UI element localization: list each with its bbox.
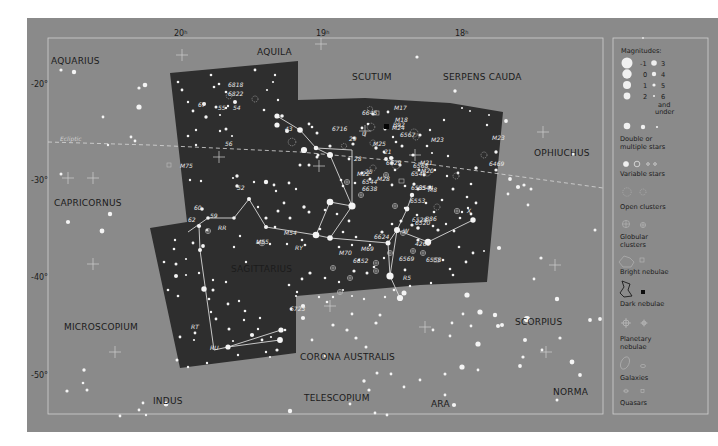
star: [348, 158, 351, 161]
star: [475, 341, 480, 346]
ecliptic-label: Ecliptic: [60, 135, 82, 143]
star: [210, 311, 212, 313]
mag-label-0: 0: [643, 71, 647, 79]
star: [173, 248, 176, 251]
star: [60, 173, 63, 176]
star: [394, 227, 400, 233]
star: [225, 344, 230, 349]
star: [504, 119, 508, 123]
star: [187, 366, 189, 368]
mag-2-star: [624, 93, 631, 100]
object-label: RT: [191, 323, 200, 330]
star: [367, 388, 370, 391]
star: [355, 236, 358, 239]
object-label: 60: [194, 204, 202, 211]
star: [403, 386, 406, 389]
star: [204, 115, 207, 118]
object-label: M70: [339, 249, 352, 256]
double-star-icon-large: [624, 123, 631, 130]
star: [402, 291, 407, 296]
star: [469, 110, 471, 112]
globular-cluster-symbol: [347, 275, 352, 280]
star: [274, 113, 279, 118]
star: [449, 335, 452, 338]
star: [301, 147, 307, 153]
star: [286, 243, 288, 245]
dec-label-minus30: -30°: [31, 176, 48, 185]
star: [533, 278, 536, 281]
star: [508, 177, 512, 181]
dec-label-minus50: -50°: [31, 371, 48, 380]
star: [474, 166, 477, 169]
star: [433, 211, 436, 214]
star: [244, 310, 247, 313]
star: [243, 319, 245, 321]
star: [225, 128, 228, 131]
star: [523, 338, 527, 342]
star: [314, 146, 319, 151]
legend-globular-line1: Globular: [620, 233, 648, 241]
star: [351, 244, 353, 246]
star: [376, 372, 379, 375]
star: [351, 313, 354, 316]
mag-1-star: [623, 81, 631, 89]
star: [274, 226, 277, 229]
object-label: 54: [233, 104, 241, 111]
globular-cluster-symbol: [420, 250, 425, 255]
star: [516, 185, 520, 189]
star: [237, 354, 239, 356]
object-label: M25: [373, 140, 386, 147]
star: [598, 317, 602, 321]
star: [225, 91, 228, 94]
globular-cluster-symbol: [373, 268, 378, 273]
star: [338, 281, 340, 283]
object-label: 62: [188, 216, 196, 223]
object-label: 25: [365, 168, 373, 175]
star: [299, 164, 302, 167]
mag-label-2: 2: [643, 93, 647, 101]
star: [194, 332, 197, 335]
star: [522, 183, 525, 186]
object-label: U: [362, 130, 367, 137]
star: [327, 199, 334, 206]
star-chart: Ecliptic 20h 19h 18h -20° -30° -40° -50°…: [0, 0, 718, 446]
star: [272, 81, 274, 83]
star: [352, 269, 355, 272]
star: [82, 368, 85, 371]
constellation-norma: NORMA: [553, 387, 589, 397]
star: [278, 327, 283, 332]
star: [318, 296, 320, 298]
object-label: 6553: [410, 197, 425, 204]
star: [296, 291, 298, 293]
star: [283, 202, 286, 205]
object-label: 56: [225, 140, 233, 147]
star: [383, 257, 385, 259]
star: [395, 141, 398, 144]
star: [461, 211, 463, 213]
star: [175, 263, 178, 266]
star: [192, 110, 195, 113]
star: [308, 164, 311, 167]
object-label: 6629: [386, 159, 401, 166]
mag-minus1-star: [622, 58, 633, 69]
constellation-ophiuchus: OPHIUCHUS: [534, 148, 590, 158]
star: [366, 272, 369, 275]
globular-cluster-icon-small: [640, 222, 645, 227]
globular-cluster-symbol: [330, 265, 335, 270]
star: [558, 336, 561, 339]
star: [82, 382, 85, 385]
star: [443, 119, 445, 121]
legend-globular-line2: clusters: [620, 241, 646, 249]
mag-under-label: under: [655, 108, 675, 116]
constellation-indus: INDUS: [153, 396, 183, 406]
star: [436, 228, 439, 231]
star: [102, 116, 105, 119]
star: [277, 337, 283, 343]
star: [206, 362, 208, 364]
star: [235, 174, 238, 177]
constellation-sagittarius: SAGITTARIUS: [231, 264, 292, 274]
mag-label-1: 1: [643, 82, 647, 90]
star: [404, 269, 407, 272]
star: [419, 379, 422, 382]
star: [410, 223, 413, 226]
